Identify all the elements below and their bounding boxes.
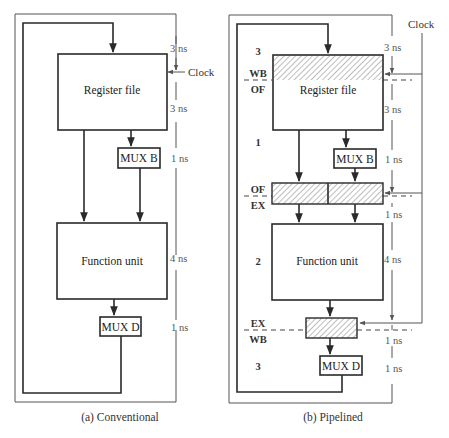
ex-wb-pipeline-register <box>306 318 357 338</box>
delay-label: 1 ns <box>385 154 402 165</box>
delay-label: 3 ns <box>384 104 401 115</box>
register-file-label: Register file <box>84 84 141 97</box>
stage-label-ex: EX <box>251 200 266 211</box>
delay-label: 1 ns <box>385 335 402 346</box>
delay-label: 3 ns <box>170 103 187 114</box>
pipelined-diagram: Clock 3 ns 3 ns 1 ns 1 ns 4 ns 1 ns 1 ns… <box>229 15 435 424</box>
stage-number: 3 <box>255 361 260 372</box>
stage-label-ex: EX <box>251 318 266 329</box>
delay-label: 3 ns <box>170 43 187 54</box>
wb-of-pipeline-register <box>274 56 382 80</box>
stage-label-of: OF <box>251 84 266 95</box>
mux-b-label: MUX B <box>336 153 374 165</box>
mux-d-label: MUX D <box>322 360 360 372</box>
clock-label: Clock <box>188 66 215 78</box>
mux-b-label: MUX B <box>120 152 158 164</box>
delay-label: 1 ns <box>385 209 402 220</box>
mux-d-label: MUX D <box>101 321 139 333</box>
clock-label: Clock <box>408 18 435 30</box>
function-unit-label: Function unit <box>81 255 143 267</box>
pipeline-datapath-figure: Clock 3 ns 3 ns 1 ns 4 ns 1 ns Register … <box>0 0 449 438</box>
stage-label-wb: WB <box>249 334 267 345</box>
stage-number: 1 <box>255 137 260 148</box>
delay-label: 1 ns <box>171 153 188 164</box>
caption-conventional: (a) Conventional <box>81 411 159 424</box>
delay-label: 4 ns <box>384 254 401 265</box>
register-file-label: Register file <box>300 84 357 97</box>
function-unit-label: Function unit <box>296 255 358 267</box>
delay-label: 1 ns <box>171 322 188 333</box>
caption-pipelined: (b) Pipelined <box>303 411 363 424</box>
stage-number: 2 <box>255 256 260 267</box>
delay-label: 3 ns <box>384 42 401 53</box>
conventional-diagram: Clock 3 ns 3 ns 1 ns 4 ns 1 ns Register … <box>15 14 215 424</box>
stage-label-of: OF <box>251 184 266 195</box>
stage-label-wb: WB <box>249 68 267 79</box>
delay-label: 1 ns <box>385 363 402 374</box>
delay-label: 4 ns <box>170 253 187 264</box>
stage-number: 3 <box>255 46 260 57</box>
